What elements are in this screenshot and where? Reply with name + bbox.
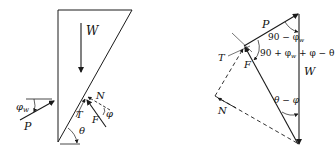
label-t-polygon: T: [218, 52, 226, 63]
theta-angle-arc: [68, 128, 77, 143]
angle-label-bottom: θ − φ: [274, 95, 300, 105]
label-theta: θ: [79, 125, 85, 136]
label-n: N: [95, 90, 106, 101]
angle-arc-mid: [254, 40, 259, 60]
label-n-polygon: N: [217, 105, 228, 116]
angle-arc-top: [285, 22, 298, 32]
label-f-polygon: F: [243, 59, 252, 70]
label-w-polygon: W: [304, 65, 317, 78]
wedge-figure: W φw P T N F φ θ: [16, 10, 132, 144]
phi-w-angle-arc: [34, 99, 35, 112]
phi-angle-arc: [103, 108, 105, 115]
label-phi: φ: [106, 108, 113, 119]
label-p: P: [23, 120, 32, 133]
label-phi-w: φw: [16, 101, 29, 114]
force-polygon-figure: T P W F N 90 − φw 90 + φw + φ − θ θ − φ: [215, 14, 334, 144]
diagram-canvas: W φw P T N F φ θ T P W: [0, 0, 336, 157]
label-f: F: [91, 114, 100, 125]
label-w: W: [86, 24, 100, 38]
angle-label-mid: 90 + φw + φ − θ: [260, 48, 334, 59]
label-t: T: [76, 109, 84, 120]
angle-arc-bottom: [282, 112, 298, 115]
label-p-polygon: P: [261, 18, 270, 31]
